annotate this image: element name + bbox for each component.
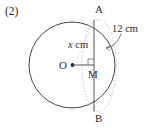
point-label-m: M <box>88 69 98 80</box>
center-point-dot <box>71 63 75 67</box>
radius-measure-label: 12 cm <box>112 24 138 35</box>
point-label-a: A <box>95 4 103 15</box>
unknown-length-label: x cm <box>68 40 88 51</box>
point-label-o: O <box>59 60 67 71</box>
right-angle-marker <box>88 59 94 65</box>
problem-number-label: (2) <box>5 6 18 18</box>
point-label-b: B <box>95 113 102 124</box>
unknown-length-unit: cm <box>75 39 88 50</box>
figure-canvas <box>0 0 155 129</box>
geometry-figure: (2) A B O M x cm 12 cm <box>0 0 155 129</box>
leader-arrow-12cm <box>106 46 110 51</box>
